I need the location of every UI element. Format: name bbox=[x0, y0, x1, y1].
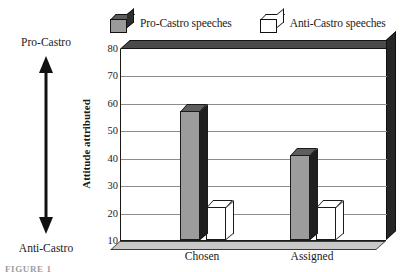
plot-panel bbox=[120, 49, 386, 241]
x-axis-category-labels: ChosenAssigned bbox=[96, 250, 396, 266]
x-category-label-chosen: Chosen bbox=[152, 250, 252, 262]
gridline bbox=[121, 159, 387, 160]
gridline bbox=[121, 104, 387, 105]
y-tick-label: 40 bbox=[96, 154, 118, 164]
gridline bbox=[121, 76, 387, 77]
y-tick-label: 50 bbox=[96, 126, 118, 136]
y-tick-label: 60 bbox=[96, 99, 118, 109]
x-category-label-assigned: Assigned bbox=[262, 250, 362, 262]
y-tick-label: 30 bbox=[96, 181, 118, 191]
legend-entry-anti-castro: Anti-Castro speeches bbox=[260, 14, 386, 33]
y-tick-label: 80 bbox=[96, 44, 118, 54]
bar-side-face bbox=[310, 148, 318, 240]
gridline bbox=[121, 214, 387, 215]
bar-front-face bbox=[180, 111, 200, 240]
hollow-cube-icon bbox=[260, 14, 286, 33]
gridline bbox=[121, 131, 387, 132]
bar-assigned-anti-castro bbox=[316, 207, 336, 240]
legend-label-anti-castro: Anti-Castro speeches bbox=[290, 17, 386, 29]
y-axis-title-text: Attitude attributed bbox=[80, 99, 92, 189]
bar-front-face bbox=[206, 207, 226, 240]
y-axis-title: Attitude attributed bbox=[78, 88, 94, 200]
filled-cube-icon bbox=[110, 14, 136, 33]
bar-assigned-pro-castro bbox=[290, 155, 310, 240]
bar-chart: 1020304050607080 bbox=[96, 40, 396, 250]
scale-bottom-label: Anti-Castro bbox=[0, 242, 92, 254]
y-tick-label: 20 bbox=[96, 209, 118, 219]
chart-3d-right-wall bbox=[386, 31, 396, 240]
gridline bbox=[121, 186, 387, 187]
chart-3d-floor bbox=[110, 241, 386, 250]
chart-3d-top-face bbox=[120, 40, 396, 49]
legend-label-pro-castro: Pro-Castro speeches bbox=[140, 17, 232, 29]
bar-chosen-anti-castro bbox=[206, 207, 226, 240]
bar-chosen-pro-castro bbox=[180, 111, 200, 240]
legend-entry-pro-castro: Pro-Castro speeches bbox=[110, 14, 232, 33]
chart-legend: Pro-Castro speeches Anti-Castro speeches bbox=[110, 10, 400, 36]
bar-front-face bbox=[290, 155, 310, 240]
y-axis-tick-labels: 1020304050607080 bbox=[96, 40, 118, 250]
plot-area bbox=[120, 40, 396, 250]
bar-side-face bbox=[200, 104, 208, 240]
scale-top-label: Pro-Castro bbox=[0, 36, 92, 48]
y-tick-label: 70 bbox=[96, 71, 118, 81]
bar-front-face bbox=[316, 207, 336, 240]
figure-caption: FIGURE 1 bbox=[5, 264, 52, 272]
